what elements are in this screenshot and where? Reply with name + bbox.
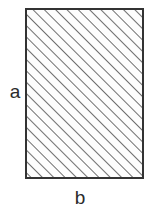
- dimension-label-height: a: [6, 82, 24, 101]
- dimension-label-width: b: [70, 188, 90, 207]
- hatched-rectangle-diagram: [0, 0, 152, 217]
- cross-section-rectangle: [26, 9, 143, 178]
- figure-canvas: a b: [0, 0, 152, 217]
